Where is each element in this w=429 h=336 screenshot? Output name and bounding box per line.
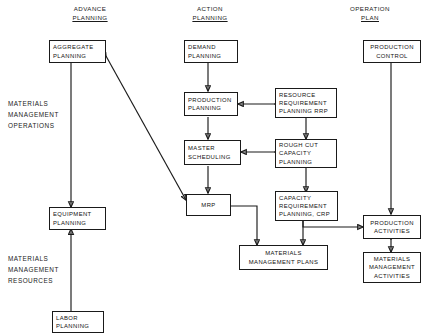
node-label-line: PLANNING: [56, 322, 89, 330]
node-aggregate-planning[interactable]: AGGREGATE PLANNING: [49, 40, 106, 63]
node-label-line: CAPACITY: [279, 149, 311, 157]
node-label-line: MATERIALS: [374, 255, 411, 263]
node-materials-management-activities[interactable]: MATERIALS MANAGEMENT ACTIVITIES: [363, 252, 421, 283]
node-label-line: EQUIPMENT: [53, 210, 92, 218]
node-label-line: AGGREGATE: [53, 43, 93, 51]
node-label-line: PLANNING: [188, 104, 221, 112]
column-header-line2: PLAN: [330, 14, 410, 23]
side-label-line: MANAGEMENT: [8, 264, 59, 275]
node-label-line: PRODUCTION: [370, 43, 414, 51]
node-label-line: ROUGH CUT: [279, 141, 318, 149]
node-label-line: RESOURCE: [279, 91, 316, 99]
column-header-advance-planning: ADVANCE PLANNING: [55, 5, 125, 22]
node-capacity-requirement-planning[interactable]: CAPACITY REQUIREMENT PLANNING, CRP: [275, 191, 338, 221]
column-header-line1: OPERATION: [330, 5, 410, 14]
node-rough-cut-capacity-planning[interactable]: ROUGH CUT CAPACITY PLANNING: [275, 139, 337, 168]
node-label-line: REQUIREMENT: [279, 99, 327, 107]
column-header-line2: PLANNING: [175, 14, 245, 23]
node-production-planning[interactable]: PRODUCTION PLANNING: [184, 92, 238, 116]
node-label-line: MANAGEMENT PLANS: [249, 258, 318, 266]
column-header-action-planning: ACTION PLANNING: [175, 5, 245, 22]
side-label-line: MATERIALS: [8, 253, 59, 264]
node-label-line: PRODUCTION: [188, 96, 232, 104]
edge-mrp-to-materials-management-plans: [231, 206, 257, 245]
node-label-line: MATERIALS: [265, 249, 302, 257]
flowchart-diagram: ADVANCE PLANNING ACTION PLANNING OPERATI…: [0, 0, 429, 336]
node-demand-planning[interactable]: DEMAND PLANNING: [184, 40, 238, 63]
column-header-operation-plan: OPERATION PLAN: [330, 5, 410, 22]
side-label-line: OPERATIONS: [8, 120, 59, 131]
node-labor-planning[interactable]: LABOR PLANNING: [52, 311, 104, 333]
node-mrp[interactable]: MRP: [186, 194, 231, 216]
node-label-line: PLANNING: [53, 219, 86, 227]
node-label-line: PLANNING: [188, 52, 221, 60]
node-label-line: PRODUCTION: [370, 219, 414, 227]
node-label-line: REQUIREMENT: [279, 202, 327, 210]
node-materials-management-plans[interactable]: MATERIALS MANAGEMENT PLANS: [239, 245, 328, 270]
edge-aggregate-to-mrp: [106, 56, 186, 200]
side-label-line: RESOURCES: [8, 275, 59, 286]
node-label-line: LABOR: [56, 314, 78, 322]
node-master-scheduling[interactable]: MASTER SCHEDULING: [184, 140, 241, 165]
node-label-line: ACTIVITIES: [374, 272, 410, 280]
column-header-line2: PLANNING: [55, 14, 125, 23]
side-label-materials-management-operations: MATERIALS MANAGEMENT OPERATIONS: [8, 98, 59, 131]
node-resource-requirement-planning[interactable]: RESOURCE REQUIREMENT PLANNING RRP: [275, 88, 337, 118]
side-label-line: MATERIALS: [8, 98, 59, 109]
node-label-line: MASTER: [188, 144, 215, 152]
node-equipment-planning[interactable]: EQUIPMENT PLANNING: [49, 207, 106, 230]
node-label-line: MRP: [201, 201, 215, 209]
side-label-materials-management-resources: MATERIALS MANAGEMENT RESOURCES: [8, 253, 59, 286]
node-label-line: SCHEDULING: [188, 153, 231, 161]
side-label-line: MANAGEMENT: [8, 109, 59, 120]
node-label-line: PLANNING: [279, 158, 312, 166]
edge-crp-to-production-activities: [303, 220, 363, 227]
node-label-line: PLANNING RRP: [279, 107, 328, 115]
node-label-line: DEMAND: [188, 43, 216, 51]
column-header-line1: ACTION: [175, 5, 245, 14]
column-header-line1: ADVANCE: [55, 5, 125, 14]
node-label-line: PLANNING: [53, 52, 86, 60]
node-label-line: CONTROL: [376, 52, 408, 60]
node-label-line: PLANNING, CRP: [279, 210, 330, 218]
node-production-activities[interactable]: PRODUCTION ACTIVITIES: [363, 215, 421, 239]
node-label-line: MANAGEMENT: [369, 263, 415, 271]
node-production-control[interactable]: PRODUCTION CONTROL: [363, 40, 421, 63]
node-label-line: ACTIVITIES: [374, 227, 410, 235]
node-label-line: CAPACITY: [279, 194, 311, 202]
